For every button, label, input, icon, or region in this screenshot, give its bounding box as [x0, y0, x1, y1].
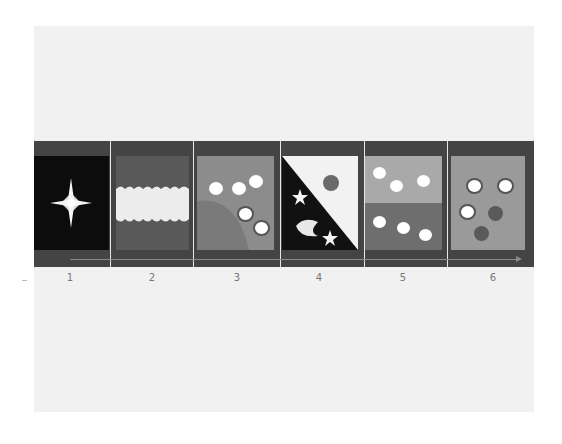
panel-2	[116, 156, 189, 250]
white-dot	[239, 208, 252, 220]
timeline-arrow-line	[70, 259, 518, 260]
night-day-split	[282, 156, 358, 250]
white-dot	[468, 180, 481, 192]
panel-divider	[447, 141, 448, 267]
sun-icon	[323, 175, 339, 191]
panel-6	[451, 156, 525, 250]
panel-label: 6	[483, 272, 503, 283]
white-dot	[417, 175, 430, 187]
white-dot	[255, 222, 268, 234]
hill-shape	[197, 156, 274, 250]
white-dot	[373, 167, 386, 179]
star-icon	[34, 156, 109, 250]
panel-label: 1	[60, 272, 80, 283]
white-dot	[390, 180, 403, 192]
white-dot	[419, 229, 432, 241]
white-dot	[397, 222, 410, 234]
panel-divider	[193, 141, 194, 267]
panel-4	[282, 156, 358, 250]
panel-5	[365, 156, 442, 250]
white-dot	[461, 206, 474, 218]
arrow-right-icon	[516, 256, 522, 262]
white-dot	[373, 216, 386, 228]
dark-dot	[488, 206, 503, 221]
panel-divider	[280, 141, 281, 267]
panel-label: 4	[309, 272, 329, 283]
white-dot	[249, 175, 263, 188]
panel-label: 2	[142, 272, 162, 283]
panel-label: 5	[393, 272, 413, 283]
dash-mark	[22, 280, 27, 281]
panel-1	[34, 156, 109, 250]
dark-dot	[474, 226, 489, 241]
white-dot	[232, 182, 246, 195]
panel-label: 3	[227, 272, 247, 283]
scalloped-band	[116, 156, 189, 250]
panel-3	[197, 156, 274, 250]
top-half	[365, 156, 442, 203]
white-dot	[499, 180, 512, 192]
panel-divider	[110, 141, 111, 267]
white-dot	[209, 182, 223, 195]
